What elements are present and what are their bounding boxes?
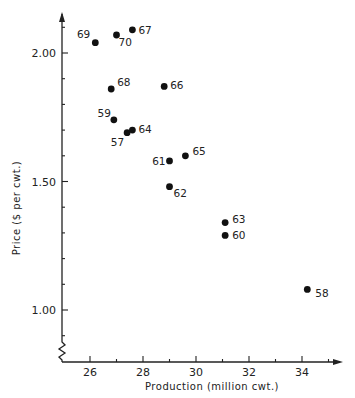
x-tick-label: 30: [189, 366, 203, 379]
y-tick-label: 1.50: [32, 176, 57, 189]
data-point: [129, 26, 136, 33]
point-label: 69: [77, 28, 90, 40]
axes: 26283032341.001.502.00: [32, 12, 344, 379]
point-label: 70: [119, 36, 132, 48]
x-tick-label: 34: [295, 366, 309, 379]
data-point: [108, 86, 115, 93]
data-point: [304, 286, 311, 293]
data-point: [222, 219, 229, 226]
point-label: 66: [170, 79, 184, 91]
data-point: [166, 183, 173, 190]
x-tick-label: 28: [136, 366, 150, 379]
x-axis-arrow-icon: [333, 359, 343, 365]
data-point: [161, 83, 168, 90]
x-tick-label: 32: [242, 366, 256, 379]
data-point: [92, 39, 99, 46]
data-points: 6970676866595764616562636058: [77, 24, 329, 300]
data-point: [110, 116, 117, 123]
y-tick-label: 1.00: [32, 304, 57, 317]
data-point: [129, 127, 136, 134]
point-label: 67: [138, 24, 151, 36]
data-point: [166, 158, 173, 165]
point-label: 58: [315, 287, 328, 299]
point-label: 59: [97, 107, 110, 119]
point-label: 64: [138, 123, 152, 135]
point-label: 61: [152, 155, 165, 167]
data-point: [222, 232, 229, 239]
point-label: 57: [111, 136, 124, 148]
point-label: 65: [192, 145, 205, 157]
point-label: 62: [174, 187, 187, 199]
point-label: 68: [117, 76, 130, 88]
x-tick-label: 26: [83, 366, 97, 379]
point-label: 60: [232, 229, 245, 241]
y-axis-title: Price ($ per cwt.): [11, 161, 22, 255]
x-axis-title: Production (million cwt.): [145, 381, 279, 392]
y-axis-arrow-icon: [59, 12, 65, 22]
scatter-chart: 26283032341.001.502.00 69706768665957646…: [0, 0, 355, 398]
data-point: [182, 152, 189, 159]
y-tick-label: 2.00: [32, 47, 57, 60]
point-label: 63: [232, 213, 245, 225]
